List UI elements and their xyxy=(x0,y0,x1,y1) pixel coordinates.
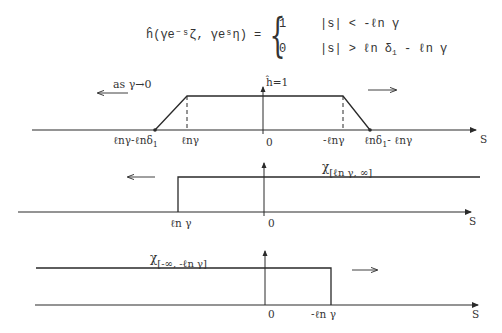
formula-case2-condition: |s| > ℓn δ1 - ℓn γ xyxy=(320,42,447,57)
panel1-tick-left-foot: ℓnγ-ℓnδ1 xyxy=(113,135,158,149)
panel1-graph xyxy=(32,87,476,134)
panel1-motion-label: as γ→0 xyxy=(113,79,152,90)
panel2-function-label: χ[ℓn γ, ∞] xyxy=(322,161,372,178)
formula-case1-value: 1 xyxy=(279,17,286,31)
panel2-tick-zero: 0 xyxy=(268,218,275,229)
panel2-tick-step: ℓn γ xyxy=(170,218,191,229)
panel3-tick-step: -ℓn γ xyxy=(311,309,336,320)
panel3-step xyxy=(36,268,331,305)
panel3-axis-label: S xyxy=(472,309,479,320)
panel1-axis-label: S xyxy=(480,134,487,145)
panel1-tick-left-top: ℓnγ xyxy=(181,135,199,146)
formula-case2-main: |s| > ℓn δ xyxy=(320,42,392,56)
panel1-height-label: ĥ=1 xyxy=(266,77,288,88)
formula-lhs: ĥ(γe⁻ˢζ, γeˢη) = xyxy=(146,27,261,42)
formula-case2-tail: - ℓn γ xyxy=(397,42,447,56)
panel3-function-label: χ[-∞, -ℓn γ] xyxy=(150,252,207,269)
panel3-tick-zero: 0 xyxy=(268,309,275,320)
panel2-axis-label: S xyxy=(469,216,476,227)
formula-case2-value: 0 xyxy=(279,42,286,56)
panel2-graph xyxy=(18,163,480,216)
panel3-graph xyxy=(35,251,478,305)
formula-case1-condition: |s| < -ℓn γ xyxy=(320,17,399,31)
panel1-tick-right-top: -ℓnγ xyxy=(323,135,345,146)
panel1-tick-zero: 0 xyxy=(266,137,273,148)
panel2-step xyxy=(178,177,480,212)
panel1-tick-right-foot: ℓnδ1- ℓnγ xyxy=(364,135,412,149)
